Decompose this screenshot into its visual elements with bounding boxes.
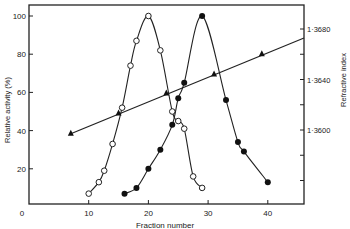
open-circle-marker (175, 118, 181, 124)
open-circle-marker (134, 38, 140, 44)
activity-curve-open (89, 16, 202, 194)
chart-canvas: 010203040Fraction number20406080100Relat… (0, 0, 350, 229)
x-tick-label: 40 (263, 209, 272, 218)
y-tick-label: 20 (17, 165, 26, 174)
y-tick-label: 60 (17, 88, 26, 97)
y-tick-label: 100 (13, 12, 27, 21)
x-tick-label: 0 (20, 209, 25, 218)
y2-tick-label: 1·3640 (307, 76, 330, 85)
y2-tick-label: 1·3680 (307, 25, 330, 34)
open-circle-marker (190, 174, 196, 180)
x-tick-label: 10 (84, 209, 93, 218)
filled-circle-marker (265, 179, 271, 185)
x-tick-label: 20 (144, 209, 153, 218)
open-circle-marker (119, 105, 125, 111)
activity-curve-filled (125, 16, 268, 194)
y-tick-label: 80 (17, 50, 26, 59)
refractive-index-line (71, 38, 304, 134)
filled-circle-marker (175, 95, 181, 101)
y-tick-label: 40 (17, 127, 26, 136)
open-circle-marker (169, 109, 175, 115)
y2-axis-label: Refractive index (339, 53, 348, 107)
filled-circle-marker (235, 139, 241, 145)
open-circle-marker (96, 179, 102, 185)
filled-circle-marker (133, 185, 139, 191)
filled-circle-marker (199, 13, 205, 19)
open-circle-marker (101, 168, 107, 174)
filled-circle-marker (122, 191, 128, 197)
open-circle-marker (199, 185, 205, 191)
filled-circle-marker (181, 80, 187, 86)
triangle-marker (259, 50, 265, 56)
filled-circle-marker (241, 149, 247, 155)
filled-circle-marker (169, 122, 175, 128)
open-circle-marker (181, 126, 187, 132)
chart: 010203040Fraction number20406080100Relat… (0, 0, 350, 229)
y-axis-label: Relative activity (%) (3, 77, 12, 143)
open-circle-marker (128, 63, 134, 69)
open-circle-marker (146, 13, 152, 19)
x-axis-label: Fraction number (136, 221, 195, 229)
open-circle-marker (110, 141, 116, 147)
filled-circle-marker (145, 166, 151, 172)
open-circle-marker (86, 191, 92, 197)
filled-circle-marker (157, 147, 163, 153)
y2-tick-label: 1·3600 (307, 126, 330, 135)
x-tick-label: 30 (204, 209, 213, 218)
plot-frame (29, 5, 304, 204)
filled-circle-marker (223, 97, 229, 103)
open-circle-marker (158, 48, 164, 54)
